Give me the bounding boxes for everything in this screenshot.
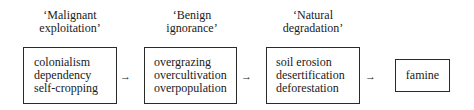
box-item: self-cropping [34,82,116,95]
label-line: exploitation’ [15,22,125,35]
stage-label-benign-ignorance: ‘Benign ignorance’ [137,9,247,35]
arrow-right-icon: → [120,71,131,82]
box-famine: famine [395,59,450,92]
stage-label-malignant-exploitation: ‘Malignant exploitation’ [15,9,125,35]
box-item: overpopulation [154,82,236,95]
stage-label-natural-degradation: ‘Natural degradation’ [258,9,368,35]
label-line: ignorance’ [137,22,247,35]
box-benign-ignorance: overgrazing overcultivation overpopulati… [144,47,237,104]
arrow-right-icon: → [365,71,376,82]
arrow-right-icon: → [241,71,252,82]
box-item: deforestation [276,82,359,95]
box-natural-degradation: soil erosion desertification deforestati… [266,47,360,104]
outcome-label: famine [406,69,439,82]
label-line: degradation’ [258,22,368,35]
box-malignant-exploitation: colonialism dependency self-cropping [23,47,117,104]
